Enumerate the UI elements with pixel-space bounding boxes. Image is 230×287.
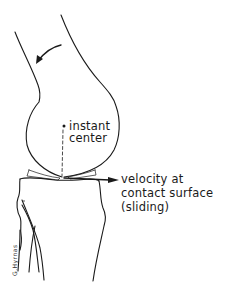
femur-outline-right: [61, 15, 119, 177]
instant-center-label-line2: center: [69, 132, 107, 144]
fibula-outline: [22, 205, 39, 272]
velocity-label-line2: contact surface: [121, 187, 213, 199]
artist-signature: G.Hyrnas: [11, 244, 18, 276]
fibula-inner-line: [29, 226, 35, 272]
meniscus-right: [68, 170, 96, 179]
tibia-outline-left: [17, 179, 21, 250]
instant-center-dashed-line: [62, 130, 63, 176]
knee-joint-diagram: [0, 0, 230, 287]
instant-center-dot: [63, 125, 66, 128]
femur-outline-left: [15, 32, 62, 177]
velocity-arrowhead-icon: [108, 177, 119, 183]
tibia-outline-right: [93, 181, 105, 281]
velocity-label-line1: velocity at: [121, 173, 183, 185]
velocity-label-line3: (sliding): [121, 201, 169, 213]
fibula-left-line: [18, 230, 20, 271]
bone-mark: [23, 200, 24, 201]
